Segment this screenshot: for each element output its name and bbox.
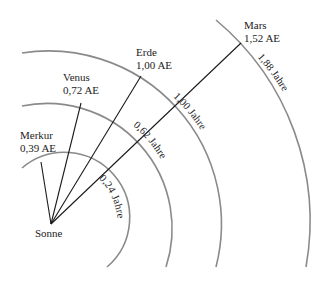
label-venus-name: Venus (63, 71, 90, 83)
period-venus: 0,62 Jahre (132, 119, 169, 161)
label-mars-name: Mars (244, 19, 267, 31)
label-mars-distance: 1,52 AE (244, 32, 280, 44)
period-merkur: 0,24 Jahre (97, 172, 126, 219)
label-erde-name: Erde (136, 46, 157, 58)
orbit-merkur (22, 152, 130, 267)
label-erde-distance: 1,00 AE (136, 59, 172, 71)
label-sonne: Sonne (35, 227, 63, 239)
ray-merkur (41, 162, 51, 224)
label-merkur-name: Merkur (20, 129, 53, 141)
ray-venus (51, 103, 81, 224)
orbit-diagram: Merkur 0,39 AE Venus 0,72 AE Erde 1,00 A… (0, 0, 324, 291)
label-merkur-distance: 0,39 AE (20, 142, 56, 154)
label-venus-distance: 0,72 AE (63, 84, 99, 96)
